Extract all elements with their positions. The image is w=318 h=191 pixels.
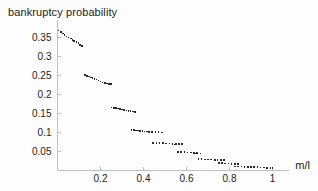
data-point	[217, 159, 219, 161]
data-point	[64, 34, 66, 36]
data-point	[123, 109, 125, 111]
data-point	[234, 163, 236, 165]
x-tick-label: 0.6	[180, 173, 194, 184]
data-point	[234, 166, 236, 168]
data-point	[187, 152, 189, 154]
data-point	[134, 111, 136, 113]
data-point	[266, 167, 268, 169]
data-point	[204, 159, 206, 161]
data-point	[198, 158, 200, 160]
data-point	[111, 107, 113, 109]
data-point	[94, 78, 96, 80]
data-point	[133, 129, 135, 131]
data-point	[257, 166, 259, 168]
x-tick-label: 1	[270, 173, 276, 184]
data-point	[247, 166, 249, 168]
axes-group	[58, 20, 290, 170]
data-point	[207, 159, 209, 161]
data-point	[144, 131, 146, 133]
data-point	[218, 162, 220, 164]
data-point	[139, 130, 141, 132]
data-point	[228, 163, 230, 165]
data-point	[151, 131, 153, 133]
x-tick-label: 0.2	[94, 173, 108, 184]
data-point	[260, 167, 262, 169]
data-point	[60, 31, 62, 33]
data-point	[215, 159, 217, 161]
data-point	[78, 42, 80, 44]
y-tick-label: 0.35	[32, 32, 52, 43]
data-point	[244, 166, 246, 168]
data-point	[253, 166, 255, 168]
data-point	[81, 45, 83, 47]
tick-group: 0.20.40.60.810.050.10.150.20.250.30.35	[32, 32, 276, 184]
data-point	[68, 37, 70, 39]
scatter-plot-canvas: 0.20.40.60.810.050.10.150.20.250.30.35 m…	[0, 0, 318, 191]
data-point	[62, 33, 64, 35]
data-point	[119, 108, 121, 110]
data-point	[126, 110, 128, 112]
data-point	[237, 163, 239, 165]
data-point	[117, 108, 119, 110]
data-point	[241, 166, 243, 168]
data-point	[169, 143, 171, 145]
data-point	[135, 130, 137, 132]
data-point	[104, 82, 106, 84]
data-point	[92, 77, 94, 79]
data-point	[156, 142, 158, 144]
data-point	[158, 131, 160, 133]
data-point	[181, 143, 183, 145]
data-point	[174, 144, 176, 146]
data-point	[70, 38, 72, 40]
data-point	[73, 40, 75, 42]
data-point	[190, 152, 192, 154]
x-tick-label: 0.8	[223, 173, 237, 184]
data-point	[113, 107, 115, 109]
data-point	[148, 131, 150, 133]
data-point	[66, 36, 68, 38]
data-point	[132, 111, 134, 113]
data-point	[221, 162, 223, 164]
data-point	[130, 110, 132, 112]
x-tick-label: 0.4	[137, 173, 151, 184]
data-point	[108, 83, 110, 85]
data-point	[115, 107, 117, 109]
data-point	[162, 142, 164, 144]
data-point-group	[58, 30, 274, 169]
data-point	[155, 131, 157, 133]
data-point	[137, 130, 139, 132]
x-axis-label: m/l	[295, 159, 310, 171]
data-point	[196, 152, 198, 154]
data-point	[178, 143, 180, 145]
data-point	[72, 39, 74, 41]
chart-figure: bankruptcy probability 0.20.40.60.810.05…	[0, 0, 318, 191]
data-point	[96, 79, 98, 81]
data-point	[220, 159, 222, 161]
data-point	[224, 163, 226, 165]
data-point	[58, 30, 60, 32]
data-point	[250, 166, 252, 168]
data-point	[263, 167, 265, 169]
data-point	[128, 110, 130, 112]
data-point	[98, 80, 100, 82]
y-tick-label: 0.2	[38, 89, 52, 100]
data-point	[121, 109, 123, 111]
data-point	[200, 153, 202, 155]
data-point	[152, 142, 154, 144]
data-point	[131, 129, 133, 131]
data-point	[177, 151, 179, 153]
y-tick-label: 0.15	[32, 108, 52, 119]
data-point	[194, 153, 196, 155]
data-point	[270, 167, 272, 169]
data-point	[110, 83, 112, 85]
data-point	[79, 44, 81, 46]
data-point	[102, 82, 104, 84]
data-point	[201, 158, 203, 160]
data-point	[100, 81, 102, 83]
data-point	[165, 143, 167, 145]
y-tick-label: 0.05	[32, 146, 52, 157]
data-point	[142, 130, 144, 132]
data-point	[231, 163, 233, 165]
data-point	[237, 166, 239, 168]
y-tick-label: 0.3	[38, 51, 52, 62]
